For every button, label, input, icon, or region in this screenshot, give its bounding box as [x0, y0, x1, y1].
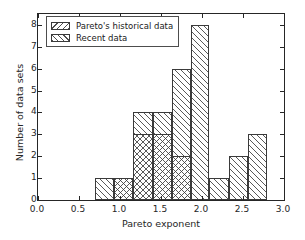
y-tick-mark	[38, 134, 42, 135]
chart-legend: Pareto's historical data Recent data	[46, 16, 179, 47]
x-tick-label: 1.5	[153, 204, 167, 214]
y-tick-label: 5	[31, 85, 37, 95]
y-tick-mark-right	[280, 91, 284, 92]
y-tick-mark-right	[280, 25, 284, 26]
y-tick-mark	[38, 200, 42, 201]
x-tick-mark	[202, 196, 203, 200]
y-tick-label: 6	[31, 63, 37, 73]
y-tick-mark-right	[280, 69, 284, 70]
y-tick-mark	[38, 112, 42, 113]
y-tick-label: 4	[31, 106, 37, 116]
histogram-bar	[191, 25, 210, 200]
histogram-figure: Pareto exponent Number of data sets Pare…	[0, 0, 305, 240]
x-tick-mark	[120, 196, 121, 200]
y-tick-mark	[38, 178, 42, 179]
x-tick-label: 2.5	[235, 204, 249, 214]
y-tick-label: 0	[31, 194, 37, 204]
legend-label-recent: Recent data	[76, 33, 127, 43]
x-tick-mark	[79, 196, 80, 200]
x-tick-label: 0.0	[30, 204, 44, 214]
legend-label-historical: Pareto's historical data	[76, 21, 173, 31]
histogram-bar	[209, 178, 229, 200]
histogram-bar	[114, 178, 133, 200]
y-tick-mark-right	[280, 200, 284, 201]
y-tick-mark	[38, 25, 42, 26]
x-tick-mark-top	[202, 14, 203, 18]
histogram-bar	[172, 69, 191, 200]
histogram-bar	[95, 178, 114, 200]
histogram-bar	[153, 112, 172, 200]
y-tick-mark-right	[280, 47, 284, 48]
y-tick-mark-right	[280, 134, 284, 135]
legend-item-historical: Pareto's historical data	[51, 20, 173, 31]
y-tick-mark	[38, 91, 42, 92]
x-tick-label: 2.0	[194, 204, 208, 214]
y-tick-label: 8	[31, 19, 37, 29]
legend-swatch-recent-icon	[51, 34, 70, 42]
x-tick-label: 0.5	[71, 204, 85, 214]
y-tick-label: 2	[31, 150, 37, 160]
histogram-bar	[229, 156, 248, 200]
histogram-bar	[248, 134, 267, 200]
histogram-bar	[133, 112, 153, 200]
x-tick-mark-top	[284, 14, 285, 18]
y-tick-label: 3	[31, 128, 37, 138]
y-tick-mark-right	[280, 178, 284, 179]
legend-swatch-historical-icon	[51, 22, 70, 30]
x-tick-mark	[161, 196, 162, 200]
y-tick-label: 7	[31, 41, 37, 51]
x-tick-mark-top	[38, 14, 39, 18]
x-tick-mark-top	[243, 14, 244, 18]
y-tick-mark-right	[280, 112, 284, 113]
y-tick-label: 1	[31, 172, 37, 182]
x-tick-label: 3.0	[276, 204, 290, 214]
x-tick-mark	[243, 196, 244, 200]
y-axis-label: Number of data sets	[14, 38, 25, 188]
x-tick-label: 1.0	[112, 204, 126, 214]
y-tick-mark	[38, 47, 42, 48]
x-tick-mark	[284, 196, 285, 200]
y-tick-mark	[38, 69, 42, 70]
legend-item-recent: Recent data	[51, 32, 173, 43]
y-tick-mark-right	[280, 156, 284, 157]
y-tick-mark	[38, 156, 42, 157]
x-axis-label: Pareto exponent	[37, 218, 285, 229]
